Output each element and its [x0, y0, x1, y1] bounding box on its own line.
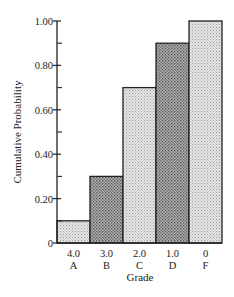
- cumulative-probability-chart: 00.200.400.600.801.00 4.0A3.0B2.0C1.0D0F…: [0, 0, 234, 297]
- bar-d: [156, 43, 189, 243]
- x-tick-grade-letter: B: [103, 260, 110, 271]
- y-tick-label: 0: [48, 238, 53, 249]
- x-axis-labels: 4.0A3.0B2.0C1.0D0F: [67, 248, 209, 271]
- y-tick-label: 0.80: [35, 60, 53, 71]
- x-tick-grade-value: 0: [203, 248, 208, 259]
- x-axis-title: Grade: [127, 271, 154, 283]
- y-tick-label: 0.60: [35, 105, 53, 116]
- bar-a: [57, 221, 90, 243]
- y-tick-label: 0.20: [35, 194, 53, 205]
- y-axis-title: Cumulative Probability: [11, 80, 23, 183]
- chart-canvas: 00.200.400.600.801.00 4.0A3.0B2.0C1.0D0F…: [0, 0, 234, 297]
- x-tick-grade-letter: F: [203, 260, 209, 271]
- bar-b: [90, 176, 123, 243]
- x-tick-grade-letter: A: [70, 260, 78, 271]
- x-tick-grade-value: 4.0: [67, 248, 80, 259]
- x-tick-grade-value: 3.0: [100, 248, 113, 259]
- x-tick-grade-value: 2.0: [133, 248, 146, 259]
- bar-f: [189, 21, 222, 243]
- bar-c: [123, 88, 156, 243]
- x-tick-grade-letter: C: [136, 260, 143, 271]
- y-tick-label: 0.40: [35, 149, 53, 160]
- x-tick-grade-value: 1.0: [166, 248, 179, 259]
- x-tick-grade-letter: D: [169, 260, 177, 271]
- y-tick-label: 1.00: [35, 16, 53, 27]
- bars-group: [57, 21, 222, 243]
